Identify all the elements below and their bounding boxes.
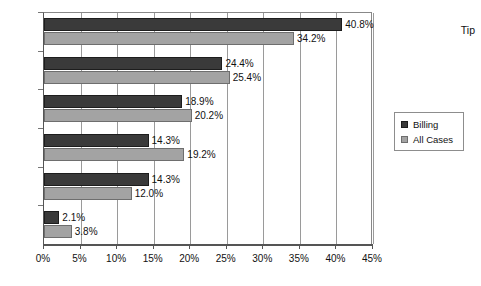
x-tick-label: 5% [60, 253, 100, 264]
gridline [81, 13, 82, 244]
x-tick-label: 25% [206, 253, 246, 264]
y-tick [38, 51, 43, 52]
bar-all-cases [44, 225, 72, 238]
bar-value-label: 3.8% [75, 227, 98, 237]
gridline [263, 13, 264, 244]
legend: Billing All Cases [394, 112, 464, 151]
category-label: Tip [441, 25, 475, 36]
all-cases-swatch [401, 136, 408, 143]
bar-billing [44, 57, 222, 70]
bar-billing [44, 95, 182, 108]
x-tick-label: 40% [315, 253, 355, 264]
bar-all-cases [44, 148, 184, 161]
y-tick [38, 12, 43, 13]
gridline [154, 13, 155, 244]
y-tick [38, 89, 43, 90]
y-tick [38, 167, 43, 168]
x-tick-label: 20% [169, 253, 209, 264]
bar-value-label: 34.2% [297, 34, 325, 44]
bar-value-label: 12.0% [135, 189, 163, 199]
bar-all-cases [44, 71, 230, 84]
x-tick-label: 30% [242, 253, 282, 264]
x-tick [43, 244, 44, 249]
x-tick-label: 10% [96, 253, 136, 264]
bar-value-label: 14.3% [152, 175, 180, 185]
y-tick [38, 128, 43, 129]
bar-value-label: 14.3% [152, 136, 180, 146]
billing-swatch [401, 121, 408, 128]
x-tick-label: 0% [23, 253, 63, 264]
x-tick [80, 244, 81, 249]
bar-all-cases [44, 32, 294, 45]
gridline [190, 13, 191, 244]
gridline [373, 13, 374, 244]
bar-billing [44, 18, 342, 31]
gridline [300, 13, 301, 244]
plot-area [43, 12, 372, 244]
legend-item-billing: Billing [401, 119, 438, 130]
x-axis-line [43, 244, 373, 246]
bar-value-label: 25.4% [233, 73, 261, 83]
bar-value-label: 24.4% [225, 59, 253, 69]
x-tick-label: 15% [133, 253, 173, 264]
bar-value-label: 20.2% [195, 111, 223, 121]
x-tick [299, 244, 300, 249]
bar-value-label: 40.8% [345, 20, 373, 30]
bar-value-label: 18.9% [185, 97, 213, 107]
x-tick [262, 244, 263, 249]
gridline [117, 13, 118, 244]
gridline [336, 13, 337, 244]
bar-billing [44, 134, 149, 147]
gridline [227, 13, 228, 244]
x-tick [153, 244, 154, 249]
x-tick [189, 244, 190, 249]
x-tick-label: 45% [352, 253, 392, 264]
bar-billing [44, 211, 59, 224]
bar-value-label: 19.2% [187, 150, 215, 160]
x-tick [116, 244, 117, 249]
bar-billing [44, 173, 149, 186]
bar-value-label: 2.1% [62, 213, 85, 223]
legend-item-all-cases: All Cases [401, 134, 453, 145]
x-tick-label: 35% [279, 253, 319, 264]
y-tick [38, 205, 43, 206]
x-tick [335, 244, 336, 249]
bar-all-cases [44, 109, 192, 122]
x-tick [372, 244, 373, 249]
x-tick [226, 244, 227, 249]
bar-chart: 0%5%10%15%20%25%30%35%40%45% Tip 40.8%34… [0, 0, 481, 286]
bar-all-cases [44, 187, 132, 200]
legend-label-billing: Billing [413, 119, 438, 130]
legend-label-all-cases: All Cases [413, 134, 453, 145]
